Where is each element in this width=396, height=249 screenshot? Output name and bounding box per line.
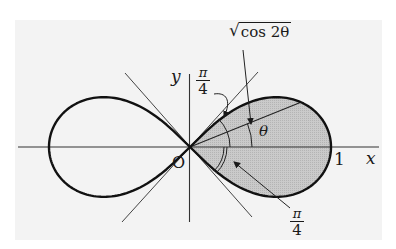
lemniscate-figure: y x O 1 θ π 4 π 4 √cos 2θ xyxy=(0,0,396,249)
fraction-numerator: π xyxy=(293,207,302,221)
diagram-canvas xyxy=(0,0,396,249)
lower-pi-over-4-label: π 4 xyxy=(290,207,304,238)
fraction-numerator: π xyxy=(199,66,208,80)
origin-label: O xyxy=(172,155,185,171)
fraction-denominator: 4 xyxy=(292,222,302,238)
upper-pi-over-4-label: π 4 xyxy=(196,66,210,97)
x-axis-label: x xyxy=(366,150,376,167)
fraction-denominator: 4 xyxy=(198,81,208,97)
theta-label: θ xyxy=(259,124,268,139)
y-axis-label: y xyxy=(171,68,181,85)
radius-expression-label: √cos 2θ xyxy=(229,22,291,40)
x-intercept-label: 1 xyxy=(334,151,345,168)
radicand: cos 2θ xyxy=(239,22,291,40)
